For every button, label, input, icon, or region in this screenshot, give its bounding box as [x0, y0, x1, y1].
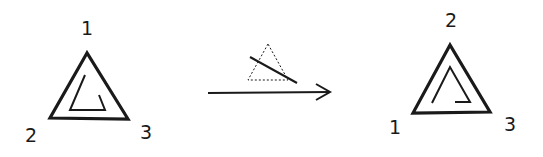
reflection-diagram: 1 2 3 2 1 3 [0, 0, 543, 157]
reflected-inner-spiral [432, 67, 470, 103]
reflected-label-bottom-right: 3 [504, 113, 516, 135]
reflected-outer-triangle [413, 45, 490, 113]
reflected-label-top: 2 [445, 9, 457, 31]
original-label-top: 1 [81, 17, 93, 39]
original-label-bottom-left: 2 [25, 124, 37, 146]
reflection-icon [248, 44, 297, 83]
right-arrow-icon [208, 84, 330, 100]
reflected-triangle: 2 1 3 [389, 9, 516, 138]
original-label-bottom-right: 3 [140, 121, 152, 143]
reflected-label-bottom-left: 1 [389, 116, 401, 138]
original-triangle: 1 2 3 [25, 17, 152, 146]
original-inner-spiral [70, 75, 105, 110]
mirror-line-icon [250, 57, 297, 83]
